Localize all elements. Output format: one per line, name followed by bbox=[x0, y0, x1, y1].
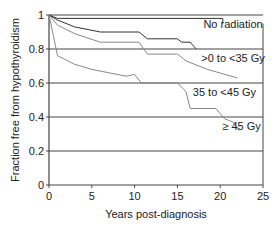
x-tick-label: 25 bbox=[257, 190, 269, 202]
series-line-0 bbox=[49, 15, 223, 24]
x-tick-label: 10 bbox=[128, 190, 140, 202]
series-label-2: 35 to <45 Gy bbox=[193, 86, 257, 98]
x-tick-label: 0 bbox=[46, 190, 52, 202]
y-tick-label: 0.4 bbox=[29, 111, 44, 123]
y-tick-label: 0.6 bbox=[29, 77, 44, 89]
series-lines bbox=[49, 15, 239, 131]
x-axis-title: Years post-diagnosis bbox=[105, 208, 207, 220]
x-tick-label: 15 bbox=[171, 190, 183, 202]
series-label-0: No radiation bbox=[203, 18, 262, 30]
y-axis-title: Fraction free from hypothyroidism bbox=[9, 18, 21, 182]
series-label-1: >0 to <35 Gy bbox=[201, 52, 265, 64]
series-line-3 bbox=[49, 15, 239, 131]
y-tick-label: 0 bbox=[38, 179, 44, 191]
x-tick-label: 5 bbox=[89, 190, 95, 202]
x-tick-label: 20 bbox=[214, 190, 226, 202]
axes: 00.20.40.60.810510152025 bbox=[29, 9, 269, 202]
y-tick-label: 0.2 bbox=[29, 145, 44, 157]
series-labels: No radiation>0 to <35 Gy35 to <45 Gy≥ 45… bbox=[193, 18, 266, 132]
y-tick-label: 1 bbox=[38, 9, 44, 21]
series-label-3: ≥ 45 Gy bbox=[222, 120, 261, 132]
y-tick-label: 0.8 bbox=[29, 43, 44, 55]
kaplan-meier-chart: 00.20.40.60.810510152025 No radiation>0 … bbox=[0, 0, 277, 229]
